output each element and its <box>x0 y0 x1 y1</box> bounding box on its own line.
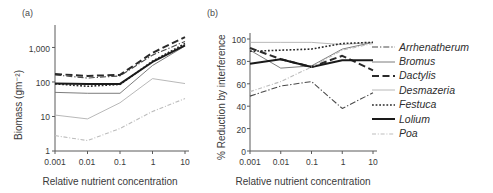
legend-item-bromus[interactable]: Bromus <box>371 54 493 68</box>
legend-label: Poa <box>399 128 418 139</box>
series-line-bromus <box>55 46 185 93</box>
legend-item-lolium[interactable]: Lolium <box>371 112 493 126</box>
legend-swatch-desmazeria-icon <box>371 85 396 95</box>
legend-item-dactylis[interactable]: Dactylis <box>371 69 493 83</box>
legend-swatch-bromus-icon <box>371 57 396 67</box>
legend-label: Festuca <box>399 99 436 110</box>
legend-swatch-arrhenatherum-icon <box>371 42 396 52</box>
axis-spine <box>55 25 189 151</box>
legend-label: Arrhenatherum <box>399 42 469 53</box>
legend-item-festuca[interactable]: Festuca <box>371 98 493 112</box>
legend-swatch-lolium-icon <box>371 114 396 124</box>
series-line-bromus <box>250 42 373 68</box>
legend: ArrhenatherumBromusDactylisDesmazeriaFes… <box>371 40 493 141</box>
panel-a-x-axis-title: Relative nutrient concentration <box>20 176 200 187</box>
series-line-dactylis <box>55 37 185 76</box>
legend-label: Lolium <box>399 114 430 125</box>
legend-item-poa[interactable]: Poa <box>371 126 493 140</box>
legend-swatch-dactylis-icon <box>371 71 396 81</box>
panel-a-plot <box>0 0 200 175</box>
legend-swatch-festuca-icon <box>371 100 396 110</box>
legend-label: Dactylis <box>399 70 436 81</box>
legend-item-arrhenatherum[interactable]: Arrhenatherum <box>371 40 493 54</box>
series-line-lolium <box>55 45 185 84</box>
legend-label: Bromus <box>399 56 435 67</box>
panel-b-plot <box>200 0 400 175</box>
legend-label: Desmazeria <box>399 85 455 96</box>
panel-b-x-axis-title: Relative nutrient concentration <box>218 176 388 187</box>
legend-item-desmazeria[interactable]: Desmazeria <box>371 83 493 97</box>
legend-swatch-poa-icon <box>371 129 396 139</box>
series-line-poa <box>55 99 185 141</box>
figure-root: (a) Biomass (gm⁻²) Relative nutrient con… <box>0 0 493 193</box>
